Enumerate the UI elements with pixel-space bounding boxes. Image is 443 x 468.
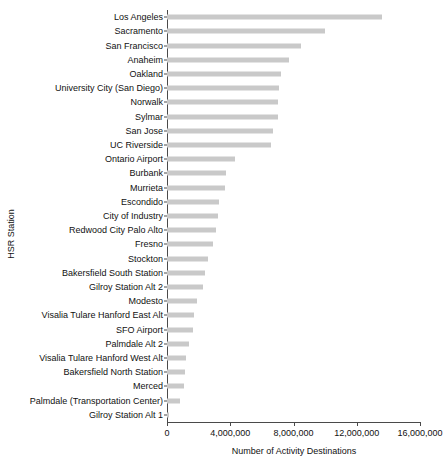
- x-axis-tick-label: 16,000,000: [397, 428, 442, 438]
- category-label: Oakland: [129, 69, 163, 79]
- bar-row: Sacramento: [167, 24, 420, 38]
- bar-row: Visalia Tulare Hanford West Alt: [167, 351, 420, 365]
- bar: [167, 157, 235, 162]
- bar: [167, 299, 197, 304]
- bar-row: Fresno: [167, 237, 420, 251]
- category-label: Gilroy Station Alt 1: [89, 410, 163, 420]
- bar-row: Gilroy Station Alt 1: [167, 408, 420, 422]
- bar: [167, 327, 193, 332]
- category-label: Fresno: [135, 239, 163, 249]
- bar: [167, 285, 203, 290]
- bar-row: Sylmar: [167, 109, 420, 123]
- y-axis-title: HSR Station: [0, 0, 22, 468]
- bar: [167, 370, 185, 375]
- bar: [167, 71, 281, 76]
- bar-row: UC Riverside: [167, 138, 420, 152]
- category-label: Murrieta: [130, 183, 163, 193]
- bar: [167, 185, 225, 190]
- bar: [167, 412, 169, 417]
- plot-area: Los AngelesSacramentoSan FranciscoAnahei…: [167, 10, 420, 422]
- bar-row: Palmdale (Transportation Center): [167, 394, 420, 408]
- category-label: City of Industry: [103, 211, 163, 221]
- bar: [167, 228, 216, 233]
- category-label: Palmdale Alt 2: [105, 339, 163, 349]
- x-axis-tick: [167, 422, 168, 426]
- x-axis-tick-label: 0: [164, 428, 169, 438]
- bar-row: Gilroy Station Alt 2: [167, 280, 420, 294]
- bar: [167, 114, 278, 119]
- bar-row: University City (San Diego): [167, 81, 420, 95]
- bar: [167, 384, 184, 389]
- bar-row: Norwalk: [167, 95, 420, 109]
- bar-row: City of Industry: [167, 209, 420, 223]
- category-label: Burbank: [129, 168, 163, 178]
- category-label: San Jose: [125, 126, 163, 136]
- category-label: Visalia Tulare Hanford West Alt: [39, 353, 163, 363]
- bar-row: San Francisco: [167, 38, 420, 52]
- bar: [167, 398, 180, 403]
- category-label: UC Riverside: [110, 140, 163, 150]
- x-axis-tick: [230, 422, 231, 426]
- x-axis-tick: [357, 422, 358, 426]
- category-label: Los Angeles: [114, 12, 163, 22]
- category-label: Sylmar: [135, 112, 163, 122]
- bar: [167, 43, 301, 48]
- bar-row: Burbank: [167, 166, 420, 180]
- bar: [167, 356, 186, 361]
- x-axis-tick-label: 4,000,000: [210, 428, 250, 438]
- category-label: Visalia Tulare Hanford East Alt: [42, 310, 163, 320]
- category-label: Gilroy Station Alt 2: [89, 282, 163, 292]
- category-label: San Francisco: [105, 41, 163, 51]
- bar: [167, 57, 289, 62]
- x-axis-tick-label: 12,000,000: [334, 428, 379, 438]
- category-label: Bakersfield North Station: [63, 367, 163, 377]
- category-label: Ontario Airport: [105, 154, 163, 164]
- bar-row: Redwood City Palo Alto: [167, 223, 420, 237]
- bar: [167, 29, 325, 34]
- bar-row: Palmdale Alt 2: [167, 337, 420, 351]
- bar: [167, 171, 226, 176]
- bar: [167, 213, 218, 218]
- category-label: SFO Airport: [116, 325, 163, 335]
- bar-row: San Jose: [167, 124, 420, 138]
- bar: [167, 86, 279, 91]
- bar-row: Bakersfield South Station: [167, 266, 420, 280]
- category-label: Stockton: [128, 254, 163, 264]
- category-label: Palmdale (Transportation Center): [30, 396, 163, 406]
- category-label: Merced: [133, 381, 163, 391]
- bar: [167, 270, 205, 275]
- bar-row: Los Angeles: [167, 10, 420, 24]
- x-axis-tick: [294, 422, 295, 426]
- bar: [167, 142, 271, 147]
- bar-row: Ontario Airport: [167, 152, 420, 166]
- bar: [167, 199, 219, 204]
- category-label: Anaheim: [127, 55, 163, 65]
- bar-row: SFO Airport: [167, 323, 420, 337]
- bar-row: Stockton: [167, 252, 420, 266]
- bar: [167, 256, 208, 261]
- bar-row: Escondido: [167, 195, 420, 209]
- bar: [167, 313, 194, 318]
- bar: [167, 128, 273, 133]
- bar: [167, 341, 189, 346]
- category-label: Sacramento: [114, 26, 163, 36]
- bar-row: Merced: [167, 379, 420, 393]
- category-label: University City (San Diego): [55, 83, 163, 93]
- category-label: Redwood City Palo Alto: [69, 225, 163, 235]
- bar-row: Bakersfield North Station: [167, 365, 420, 379]
- category-label: Modesto: [128, 296, 163, 306]
- bar: [167, 242, 213, 247]
- bar: [167, 15, 382, 20]
- bar: [167, 100, 278, 105]
- bar-row: Murrieta: [167, 180, 420, 194]
- x-axis-tick-label: 8,000,000: [273, 428, 313, 438]
- category-label: Bakersfield South Station: [62, 268, 163, 278]
- bar-row: Anaheim: [167, 53, 420, 67]
- category-label: Norwalk: [130, 97, 163, 107]
- category-label: Escondido: [121, 197, 163, 207]
- bar-row: Visalia Tulare Hanford East Alt: [167, 308, 420, 322]
- bar-row: Modesto: [167, 294, 420, 308]
- x-axis-tick: [420, 422, 421, 426]
- bar-row: Oakland: [167, 67, 420, 81]
